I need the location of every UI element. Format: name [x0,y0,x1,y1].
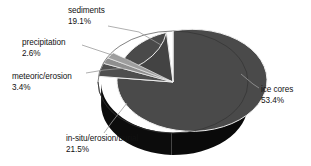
slice-label-precipitation-value: 2.6% [22,49,66,60]
slice-label-ice-cores-name: ice cores [261,85,293,96]
slice-label-meteoric-erosion-name: meteoric/erosion [12,72,72,83]
slice-label-meteoric-erosion-value: 3.4% [12,83,72,94]
pie-top-face [98,29,267,133]
slice-label-ice-cores-value: 53.4% [261,96,293,107]
slice-label-sediments-value: 19.1% [68,17,105,28]
slice-label-in-situ-value: 21.5% [66,145,138,156]
slice-label-ice-cores: ice cores 53.4% [261,85,293,106]
slice-label-meteoric-erosion: meteoric/erosion 3.4% [12,72,72,93]
pie-slice-ice-cores [117,29,267,131]
slice-label-sediments-name: sediments [68,6,105,17]
slice-label-in-situ: in-situ/erosion/burial 21.5% [66,134,138,155]
slice-label-in-situ-name: in-situ/erosion/burial [66,134,138,145]
slice-label-sediments: sediments 19.1% [68,6,105,27]
slice-label-precipitation: precipitation 2.6% [22,38,66,59]
slice-label-precipitation-name: precipitation [22,38,66,49]
pie-chart-figure: sediments 19.1% precipitation 2.6% meteo… [0,0,311,166]
